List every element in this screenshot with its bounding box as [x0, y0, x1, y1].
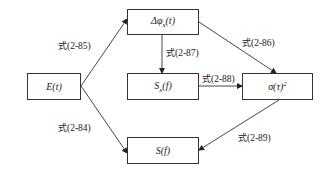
edge-label-2-89: 式(2-89) — [238, 131, 271, 144]
edge-label-2-84: 式(2-84) — [58, 121, 91, 134]
node-s-f-label: S(f) — [156, 145, 170, 156]
node-s-f: S(f) — [127, 137, 199, 164]
node-sigma-tau-label: σ(τ)2 — [268, 80, 287, 92]
node-e-t: E(t) — [27, 73, 81, 100]
edge-label-2-86: 式(2-86) — [242, 36, 275, 49]
node-sx-f: Sx(f) — [127, 73, 199, 100]
node-delta-phi-label: Δφx(t) — [151, 15, 175, 29]
edge-label-2-88: 式(2-88) — [202, 72, 235, 85]
node-delta-phi: Δφx(t) — [127, 9, 199, 35]
arrow-e-to-dphi — [81, 19, 127, 86]
edge-label-2-87: 式(2-87) — [166, 46, 199, 59]
node-sigma-tau: σ(τ)2 — [242, 73, 313, 100]
node-e-t-label: E(t) — [46, 81, 62, 92]
arrow-e-to-s — [81, 86, 127, 153]
node-sx-f-label: Sx(f) — [154, 80, 172, 94]
edge-label-2-85: 式(2-85) — [58, 39, 91, 52]
